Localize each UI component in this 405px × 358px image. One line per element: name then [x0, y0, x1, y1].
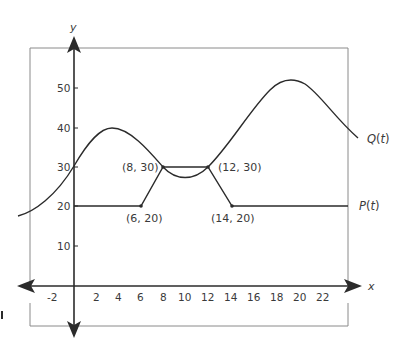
x-axis-label: x [367, 280, 375, 293]
chart: x y 50 40 30 20 10 -2 2 4 6 8 10 12 14 1… [0, 0, 405, 358]
x-tick--2: -2 [47, 291, 57, 303]
x-tick-14: 14 [224, 291, 238, 303]
y-tick-50: 50 [57, 82, 70, 94]
y-tick-20: 20 [57, 200, 70, 212]
y-tick-40: 40 [57, 122, 70, 134]
legend-p: P(t) [359, 199, 379, 213]
y-tick-10: 10 [57, 240, 70, 252]
x-tick-12: 12 [201, 291, 214, 303]
label-point-12-30: (12, 30) [218, 161, 262, 174]
x-tick-2: 2 [93, 291, 100, 303]
label-point-8-30: (8, 30) [122, 161, 159, 174]
series-q [18, 80, 358, 216]
x-tick-20: 20 [293, 291, 306, 303]
plot-frame [30, 48, 348, 326]
edge-mark [1, 311, 3, 319]
series-p [74, 167, 348, 206]
x-tick-6: 6 [137, 291, 144, 303]
point-14-20 [230, 204, 234, 208]
point-12-30 [206, 165, 210, 169]
label-point-6-20: (6, 20) [126, 212, 163, 225]
y-tick-30: 30 [57, 161, 70, 173]
x-tick-16: 16 [247, 291, 261, 303]
point-8-30 [161, 165, 165, 169]
point-6-20 [139, 204, 143, 208]
x-tick-4: 4 [115, 291, 122, 303]
x-tick-22: 22 [316, 291, 329, 303]
x-tick-18: 18 [270, 291, 283, 303]
legend-q: Q(t) [367, 132, 390, 146]
y-axis-label: y [69, 21, 77, 34]
x-tick-8: 8 [160, 291, 167, 303]
x-tick-10: 10 [178, 291, 191, 303]
label-point-14-20: (14, 20) [211, 212, 255, 225]
